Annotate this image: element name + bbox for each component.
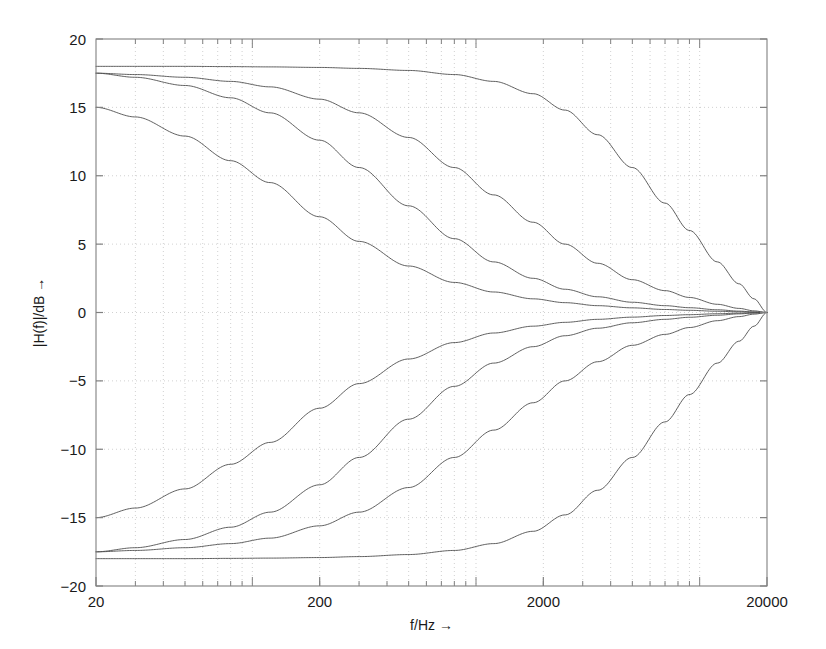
x-tick-label: 20	[88, 593, 105, 610]
y-tick-label: 20	[69, 31, 86, 48]
y-tick-label: −5	[69, 372, 86, 389]
y-tick-label: −10	[61, 441, 86, 458]
x-tick-label: 200	[307, 593, 332, 610]
y-axis-label: |H(f)|/dB →	[31, 278, 47, 348]
chart-figure: 2020020002000020151050−5−10−15−20f/Hz →|…	[0, 0, 826, 649]
y-tick-label: 15	[69, 99, 86, 116]
y-tick-label: 10	[69, 167, 86, 184]
y-tick-label: −20	[61, 578, 86, 595]
plot-area: 2020020002000020151050−5−10−15−20f/Hz →|…	[31, 31, 788, 634]
y-tick-label: 5	[78, 236, 86, 253]
y-tick-label: −15	[61, 509, 86, 526]
x-tick-label: 2000	[527, 593, 560, 610]
y-tick-label: 0	[78, 304, 86, 321]
x-axis-label: f/Hz →	[410, 617, 453, 633]
x-tick-label: 20000	[746, 593, 788, 610]
